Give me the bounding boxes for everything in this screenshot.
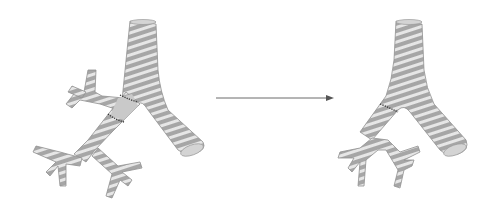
lower-left-branch bbox=[33, 146, 82, 186]
bronchial-tree-after bbox=[338, 20, 468, 189]
trachea-after bbox=[360, 21, 467, 155]
lower-right-branch bbox=[92, 148, 142, 198]
trachea bbox=[120, 21, 204, 154]
upper-lobe-sub-branch bbox=[68, 86, 86, 98]
transition-arrow bbox=[216, 95, 334, 101]
arrow-head-icon bbox=[326, 95, 334, 101]
trachea-top-after bbox=[396, 20, 422, 25]
bronchial-diagram bbox=[0, 0, 496, 218]
bronchial-tree-before bbox=[33, 20, 205, 199]
lower-branches-after bbox=[338, 138, 420, 188]
trachea-top bbox=[130, 20, 156, 25]
